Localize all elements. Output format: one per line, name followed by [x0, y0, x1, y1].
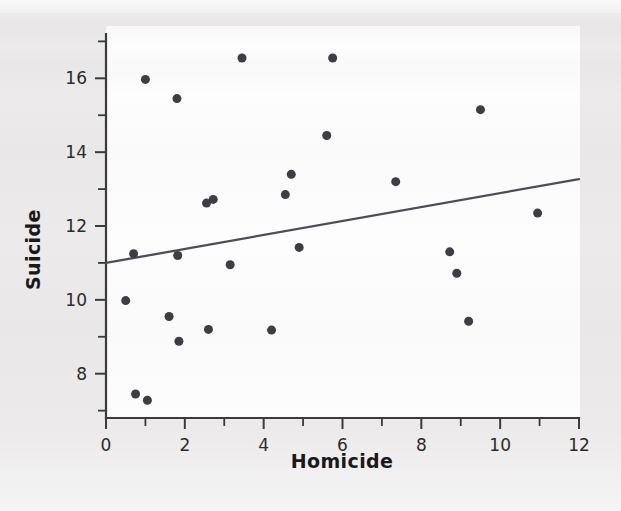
- data-point: [129, 249, 138, 258]
- x-tick-label: 2: [179, 435, 190, 455]
- data-point: [476, 105, 485, 114]
- y-tick-label: 10: [65, 290, 87, 310]
- data-point: [165, 312, 174, 321]
- data-point: [322, 131, 331, 140]
- data-point: [533, 209, 542, 218]
- data-point: [204, 325, 213, 334]
- data-point: [281, 190, 290, 199]
- data-point: [121, 296, 130, 305]
- figure-page: 810121416 024681012 Suicide Homicide: [0, 0, 621, 511]
- data-point: [173, 251, 182, 260]
- data-point: [445, 247, 454, 256]
- data-point: [237, 54, 246, 63]
- data-points-group: [121, 54, 542, 405]
- data-point: [328, 54, 337, 63]
- data-point: [174, 337, 183, 346]
- y-tick-label: 8: [76, 364, 87, 384]
- data-point: [295, 243, 304, 252]
- y-tick-label: 12: [65, 216, 87, 236]
- data-point: [131, 390, 140, 399]
- data-point: [143, 396, 152, 405]
- x-tick-label: 0: [101, 435, 112, 455]
- data-point: [452, 269, 461, 278]
- trendline: [106, 179, 579, 263]
- axes-group: [106, 34, 579, 418]
- x-tick-label: 12: [568, 435, 590, 455]
- trendline-group: [106, 179, 579, 263]
- data-point: [209, 195, 218, 204]
- x-tick-label: 4: [258, 435, 269, 455]
- data-point: [464, 317, 473, 326]
- x-tick-label: 10: [489, 435, 511, 455]
- data-point: [172, 94, 181, 103]
- scatter-chart: 810121416 024681012 Suicide Homicide: [0, 0, 621, 511]
- x-axis-title: Homicide: [291, 450, 394, 472]
- data-point: [287, 170, 296, 179]
- x-tick-label: 8: [416, 435, 427, 455]
- data-point: [267, 326, 276, 335]
- y-axis-title: Suicide: [22, 209, 44, 290]
- y-tick-label: 14: [65, 142, 87, 162]
- y-axis-ticks: 810121416: [65, 41, 106, 410]
- data-point: [226, 260, 235, 269]
- y-tick-label: 16: [65, 68, 87, 88]
- data-point: [141, 75, 150, 84]
- data-point: [391, 177, 400, 186]
